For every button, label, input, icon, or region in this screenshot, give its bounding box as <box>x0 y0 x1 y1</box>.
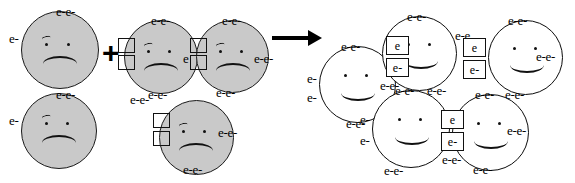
electron-label-r3-bottom: e-e- <box>148 88 167 101</box>
empty-orbital-box-r4-lower <box>190 55 207 70</box>
empty-orbital-box-r3-lower <box>118 55 135 70</box>
electron-label-r3-top: e-e- <box>151 14 170 27</box>
filled-orbital-box-p3-lower: e- <box>463 60 486 79</box>
plus-operator: + <box>102 38 120 68</box>
electron-label-r4-bottom: e-e- <box>216 86 235 99</box>
electron-label-p4-left-lower: e- <box>360 134 370 147</box>
right-eye <box>419 118 422 121</box>
left-eyebrow <box>42 114 52 121</box>
left-eye <box>344 74 347 77</box>
product-atom-p4 <box>372 90 450 168</box>
electron-label-r2-left: e- <box>9 114 19 127</box>
left-eye <box>219 50 222 53</box>
electron-label-p2-top: e-e- <box>407 10 426 23</box>
electron-label-r3-right: e <box>183 52 188 65</box>
left-eye <box>182 130 185 133</box>
right-eye <box>240 50 243 53</box>
right-eye <box>428 43 431 46</box>
reactant-atom-r1 <box>21 11 99 89</box>
left-eye <box>45 43 48 46</box>
orbital-electron-label: e- <box>470 64 479 76</box>
empty-orbital-box-r4-upper <box>190 38 207 53</box>
left-eyebrow <box>216 42 226 49</box>
orbital-electron-label: e <box>472 42 477 54</box>
happy-mouth <box>404 53 438 69</box>
orbital-electron-label: e <box>395 40 400 52</box>
electron-label-r5-topleft: e-e- <box>130 93 149 106</box>
empty-orbital-box-r3-upper <box>118 38 135 53</box>
electron-label-p3-right: e-e- <box>536 50 555 63</box>
left-eyebrow <box>144 42 154 49</box>
left-eye <box>398 118 401 121</box>
filled-orbital-box-p3-upper: e <box>463 38 486 57</box>
electron-label-r2-top: e-e- <box>56 88 75 101</box>
reaction-arrow-head <box>308 30 322 46</box>
electron-label-p4-left-upper: e- <box>360 113 370 126</box>
left-eye <box>45 122 48 125</box>
electron-label-p3-top: e-e- <box>508 14 527 27</box>
orbital-electron-label: e- <box>393 62 402 74</box>
reaction-diagram: e-e- e- e-e- e- + e-e- e e-e- <box>0 0 575 183</box>
electron-label-p1-left-upper: e- <box>307 72 317 85</box>
right-eye <box>365 74 368 77</box>
electron-label-p4-top: e-e- <box>395 84 414 97</box>
electron-label-p4-bottom: e-e- <box>384 164 403 177</box>
sad-face <box>22 94 96 168</box>
sad-mouth <box>42 135 76 151</box>
happy-mouth <box>395 129 429 145</box>
filled-orbital-box-p5-lower: e- <box>441 132 464 151</box>
electron-label-r1-top: e-e- <box>56 5 75 18</box>
electron-label-p1-left-lower: e- <box>307 91 317 104</box>
electron-label-p5-right: e-e- <box>507 124 526 137</box>
electron-label-r4-top: e-e- <box>222 14 241 27</box>
left-eye <box>513 47 516 50</box>
electron-label-r1-left: e- <box>9 32 19 45</box>
sad-mouth <box>179 143 213 159</box>
electron-label-p5-top: e-e- <box>475 88 494 101</box>
sad-mouth <box>216 63 250 79</box>
orbital-electron-label: e <box>450 114 455 126</box>
filled-orbital-box-p5-upper: e <box>441 110 464 129</box>
electron-label-p5-bottom: e-e- <box>473 163 492 176</box>
electron-label-r5-right: e-e- <box>218 126 237 139</box>
right-eye <box>498 122 501 125</box>
electron-label-p1-top: e-e- <box>341 40 360 53</box>
left-eyebrow <box>42 35 52 42</box>
empty-orbital-box-r5-lower <box>153 131 170 146</box>
reaction-arrow-shaft <box>272 36 310 40</box>
happy-mouth <box>474 133 508 149</box>
happy-mouth <box>341 85 375 101</box>
sad-mouth <box>144 63 178 79</box>
left-eyebrow <box>179 122 189 129</box>
right-eye <box>67 43 70 46</box>
electron-label-r5-bottom: e-e- <box>183 163 202 176</box>
reactant-atom-r2 <box>21 93 97 169</box>
right-eye <box>168 50 171 53</box>
right-eye <box>66 122 69 125</box>
sad-face <box>22 12 98 88</box>
sad-mouth <box>43 56 77 72</box>
empty-orbital-box-r5-upper <box>153 113 170 128</box>
electron-label-r4-right: e-e- <box>254 52 273 65</box>
right-eye <box>203 130 206 133</box>
left-eye <box>477 122 480 125</box>
filled-orbital-box-p2-upper: e <box>386 36 409 55</box>
orbital-electron-label: e- <box>448 136 457 148</box>
happy-face <box>373 91 449 167</box>
left-eye <box>147 50 150 53</box>
filled-orbital-box-p2-lower: e- <box>386 58 409 77</box>
